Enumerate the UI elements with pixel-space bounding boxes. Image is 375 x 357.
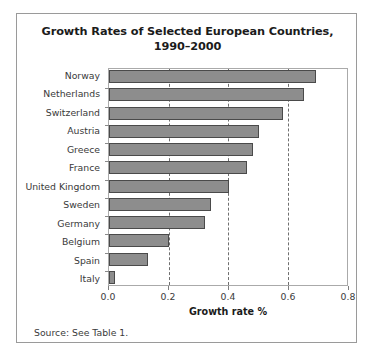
- bar-series: [109, 69, 347, 285]
- category-axis-labels: NorwayNetherlandsSwitzerlandAustriaGreec…: [17, 68, 105, 286]
- bar: [109, 107, 283, 120]
- bar: [109, 180, 229, 193]
- value-axis-labels: 0.00.20.40.60.8: [108, 291, 348, 305]
- bar: [109, 271, 115, 284]
- value-tick: [168, 286, 169, 290]
- category-label: Belgium: [17, 235, 105, 248]
- category-tick: [105, 88, 109, 89]
- bar: [109, 125, 259, 138]
- value-tick-label: 0.2: [161, 291, 176, 302]
- bar-row: [109, 234, 347, 247]
- bar: [109, 88, 304, 101]
- bar: [109, 143, 253, 156]
- chart-title: Growth Rates of Selected European Countr…: [17, 24, 358, 54]
- value-tick-label: 0.4: [221, 291, 236, 302]
- bar-row: [109, 125, 347, 138]
- value-tick: [108, 286, 109, 290]
- bar-row: [109, 161, 347, 174]
- bar-row: [109, 180, 347, 193]
- category-tick: [105, 234, 109, 235]
- category-tick: [105, 271, 109, 272]
- bar-row: [109, 271, 347, 284]
- category-tick: [105, 161, 109, 162]
- category-label: Netherlands: [17, 87, 105, 100]
- bar-row: [109, 70, 347, 83]
- bar-row: [109, 107, 347, 120]
- bar: [109, 198, 211, 211]
- bar-row: [109, 216, 347, 229]
- category-tick: [105, 107, 109, 108]
- value-tick-label: 0.8: [341, 291, 356, 302]
- category-tick: [105, 143, 109, 144]
- value-tick: [228, 286, 229, 290]
- chart-title-line-1: Growth Rates of Selected European Countr…: [42, 25, 334, 38]
- category-label: United Kingdom: [17, 180, 105, 193]
- category-label: Spain: [17, 254, 105, 267]
- bar: [109, 161, 247, 174]
- bar: [109, 70, 316, 83]
- bar: [109, 216, 205, 229]
- bar: [109, 234, 169, 247]
- source-note: Source: See Table 1.: [34, 327, 128, 338]
- bar-row: [109, 88, 347, 101]
- category-tick: [105, 216, 109, 217]
- category-label: Sweden: [17, 198, 105, 211]
- category-label: France: [17, 161, 105, 174]
- category-label: Greece: [17, 143, 105, 156]
- category-label: Switzerland: [17, 106, 105, 119]
- category-label: Norway: [17, 69, 105, 82]
- value-tick: [288, 286, 289, 290]
- category-tick: [105, 125, 109, 126]
- bar: [109, 253, 148, 266]
- value-tick-label: 0.0: [101, 291, 116, 302]
- value-axis-title: Growth rate %: [108, 306, 348, 317]
- category-tick: [105, 253, 109, 254]
- bar-row: [109, 143, 347, 156]
- category-tick: [105, 180, 109, 181]
- bar-row: [109, 253, 347, 266]
- bar-row: [109, 198, 347, 211]
- category-label: Italy: [17, 272, 105, 285]
- chart-title-line-2: 1990–2000: [17, 39, 358, 54]
- category-label: Austria: [17, 124, 105, 137]
- value-tick-label: 0.6: [281, 291, 296, 302]
- plot-area: [108, 68, 348, 286]
- category-label: Germany: [17, 217, 105, 230]
- category-tick: [105, 198, 109, 199]
- value-tick: [348, 286, 349, 290]
- figure-frame: Growth Rates of Selected European Countr…: [16, 13, 357, 343]
